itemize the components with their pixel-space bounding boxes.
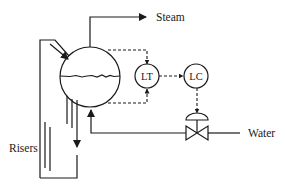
lt-label: LT	[141, 71, 153, 82]
steam-outlet-pipe	[90, 17, 146, 47]
feedwater-pipe	[91, 110, 186, 133]
control-valve	[186, 113, 208, 140]
level-transmitter: LT	[135, 64, 159, 88]
risers-label: Risers	[9, 142, 38, 154]
steam-label: Steam	[156, 11, 185, 23]
level-controller: LC	[184, 64, 208, 88]
valve-actuator-dome	[186, 113, 208, 120]
lc-label: LC	[189, 71, 202, 82]
drum-level-control-diagram: Steam LT LC Water Risers	[0, 0, 285, 189]
water-level-line	[60, 75, 120, 77]
water-label: Water	[248, 127, 275, 139]
signal-line-top-tap	[108, 50, 147, 64]
steam-drum	[60, 47, 120, 107]
riser-loop	[40, 40, 77, 178]
